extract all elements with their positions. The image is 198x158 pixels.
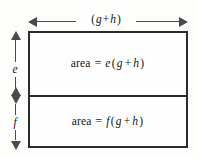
arrow-head-middle-down-icon [11,95,21,104]
lower-area-word: area [72,115,92,127]
upper-equals-sign: = [91,57,106,69]
lower-var-g: g [116,115,122,127]
width-var-g: g [96,13,102,25]
height-dimension-label-f: f [8,115,22,129]
width-plus-sign: + [102,13,111,25]
lower-equals-sign: = [92,115,107,127]
arrow-shaft-f-lower [15,130,16,140]
upper-plus-sign: + [123,57,134,69]
lower-region-expression: area=f(g+h) [28,115,188,127]
upper-var-g: g [117,57,123,69]
upper-region-expression: area=e(g+h) [28,57,188,69]
area-model-diagram: (g+h) e f area=e(g+h) area=f(g+h) [0,0,198,158]
upper-area-word: area [71,57,91,69]
arrow-shaft-left [35,21,79,22]
arrow-head-right-icon [179,17,188,27]
lower-plus-sign: + [122,115,133,127]
arrow-shaft-e-upper [15,39,16,62]
width-dimension: (g+h) [28,15,188,29]
width-close-paren: ) [116,13,122,25]
area-rectangle [28,31,188,148]
region-divider-line [28,95,188,97]
arrow-shaft-f-upper [15,104,16,115]
upper-coefficient-e: e [105,57,110,69]
upper-close-paren: ) [139,57,145,69]
height-dimensions: e f [9,31,23,150]
lower-close-paren: ) [138,115,144,127]
arrow-shaft-right [133,21,181,22]
arrow-head-bottom-icon [11,141,21,150]
height-dimension-label-e: e [8,62,22,76]
width-dimension-label: (g+h) [76,13,136,25]
